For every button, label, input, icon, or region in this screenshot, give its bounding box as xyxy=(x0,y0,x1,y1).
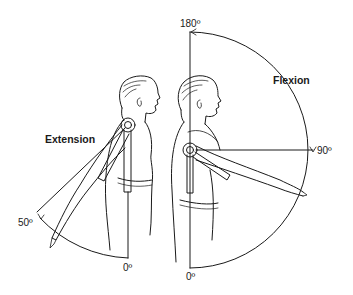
extension-head xyxy=(120,76,160,122)
label-extension: Extension xyxy=(45,134,95,145)
label-0-deg-left: 0º xyxy=(123,263,132,273)
shoulder-rom-diagram xyxy=(0,0,353,295)
label-50-deg: 50º xyxy=(18,218,33,228)
label-flexion: Flexion xyxy=(273,75,310,86)
extension-figure xyxy=(37,76,160,258)
label-180-deg: 180º xyxy=(180,19,200,29)
label-90-deg: 90º xyxy=(317,146,332,156)
label-0-deg-right: 0º xyxy=(186,272,195,282)
flexion-figure xyxy=(172,29,317,268)
